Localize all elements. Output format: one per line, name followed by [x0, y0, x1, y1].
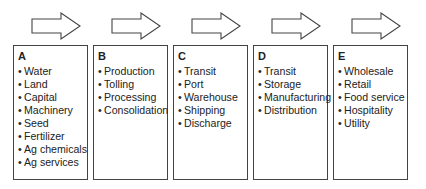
- item-label: Tolling: [104, 78, 134, 90]
- list-item: •Wholesale: [338, 65, 407, 78]
- item-label: Wholesale: [344, 65, 393, 77]
- stage-item-list: •Production•Tolling•Processing•Consolida…: [98, 65, 167, 117]
- list-item: •Transit: [258, 65, 327, 78]
- item-label: Utility: [344, 117, 370, 129]
- list-item: •Shipping: [178, 104, 247, 117]
- list-item: •Storage: [258, 78, 327, 91]
- item-label: Production: [104, 65, 155, 77]
- stage-item-list: •Transit•Storage•Manufacturing•Distribut…: [258, 65, 327, 117]
- stage-title: B: [98, 50, 167, 63]
- item-label: Machinery: [24, 104, 73, 116]
- item-label: Retail: [344, 78, 371, 90]
- item-label: Shipping: [184, 104, 225, 116]
- item-label: Water: [24, 65, 52, 77]
- list-item: •Warehouse: [178, 91, 247, 104]
- item-label: Ag services: [24, 156, 79, 168]
- item-label: Transit: [184, 65, 216, 77]
- list-item: •Discharge: [178, 117, 247, 130]
- item-label: Processing: [104, 91, 156, 103]
- item-label: Storage: [264, 78, 301, 90]
- item-label: Ag chemicals: [24, 143, 87, 155]
- list-item: •Seed: [18, 117, 87, 130]
- flow-arrow-icon: [111, 12, 161, 40]
- item-label: Capital: [24, 91, 57, 103]
- list-item: •Land: [18, 78, 87, 91]
- item-label: Fertilizer: [24, 130, 65, 142]
- item-label: Seed: [24, 117, 49, 129]
- list-item: •Food service: [338, 91, 407, 104]
- list-item: •Processing: [98, 91, 167, 104]
- item-label: Hospitality: [344, 104, 393, 116]
- list-item: •Utility: [338, 117, 407, 130]
- stage-box-d: D•Transit•Storage•Manufacturing•Distribu…: [253, 45, 328, 180]
- list-item: •Retail: [338, 78, 407, 91]
- list-item: •Transit: [178, 65, 247, 78]
- item-label: Land: [24, 78, 48, 90]
- stage-title: E: [338, 50, 407, 63]
- stage-box-b: B•Production•Tolling•Processing•Consolid…: [93, 45, 168, 180]
- flow-arrow-icon: [31, 12, 81, 40]
- item-label: Consolidation: [104, 104, 168, 116]
- list-item: •Manufacturing: [258, 91, 327, 104]
- item-label: Transit: [264, 65, 296, 77]
- stage-item-list: •Transit•Port•Warehouse•Shipping•Dischar…: [178, 65, 247, 130]
- stage-item-list: •Water•Land•Capital•Machinery•Seed•Ferti…: [18, 65, 87, 169]
- item-label: Port: [184, 78, 203, 90]
- stage-title: A: [18, 50, 87, 63]
- flow-arrow-icon: [191, 12, 241, 40]
- list-item: •Ag services: [18, 156, 87, 169]
- flow-arrow-icon: [271, 12, 321, 40]
- stage-item-list: •Wholesale•Retail•Food service•Hospitali…: [338, 65, 407, 130]
- item-label: Discharge: [184, 117, 232, 129]
- list-item: •Fertilizer: [18, 130, 87, 143]
- list-item: •Distribution: [258, 104, 327, 117]
- list-item: •Water: [18, 65, 87, 78]
- item-label: Food service: [344, 91, 405, 103]
- flow-arrow-icon: [351, 12, 401, 40]
- list-item: •Capital: [18, 91, 87, 104]
- item-label: Distribution: [264, 104, 317, 116]
- list-item: •Ag chemicals: [18, 143, 87, 156]
- list-item: •Hospitality: [338, 104, 407, 117]
- stage-box-e: E•Wholesale•Retail•Food service•Hospital…: [333, 45, 408, 180]
- item-label: Manufacturing: [264, 91, 331, 103]
- list-item: •Consolidation: [98, 104, 167, 117]
- stage-box-a: A•Water•Land•Capital•Machinery•Seed•Fert…: [13, 45, 88, 180]
- list-item: •Machinery: [18, 104, 87, 117]
- list-item: •Port: [178, 78, 247, 91]
- list-item: •Tolling: [98, 78, 167, 91]
- stage-title: C: [178, 50, 247, 63]
- stage-box-c: C•Transit•Port•Warehouse•Shipping•Discha…: [173, 45, 248, 180]
- stage-title: D: [258, 50, 327, 63]
- item-label: Warehouse: [184, 91, 238, 103]
- list-item: •Production: [98, 65, 167, 78]
